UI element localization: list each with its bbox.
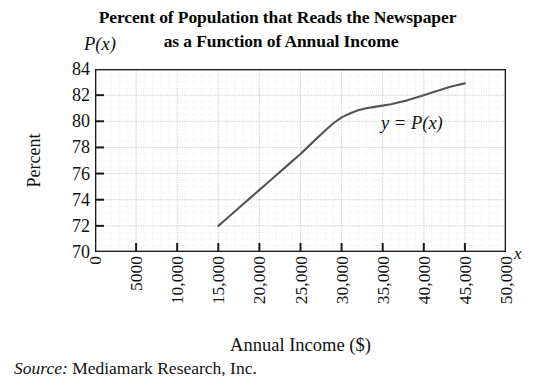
y-axis-tick-labels: 7072747678808284 <box>48 69 90 252</box>
y-tick-label: 78 <box>50 138 90 156</box>
y-tick-label: 80 <box>50 112 90 130</box>
x-tick-label: 5000 <box>128 256 145 291</box>
chart-title-line-1: Percent of Population that Reads the New… <box>0 7 555 28</box>
source-note: Source: Mediamark Research, Inc. <box>14 358 257 379</box>
x-tick-label: 15,000 <box>210 256 227 304</box>
chart-figure: Percent of Population that Reads the New… <box>0 0 555 382</box>
y-tick-label: 84 <box>50 60 90 78</box>
x-tick-label: 20,000 <box>251 256 268 304</box>
chart-title-line-2: as a Function of Annual Income <box>46 31 516 52</box>
x-tick-label: 50,000 <box>498 256 515 304</box>
x-tick-label: 30,000 <box>333 256 350 304</box>
x-tick-label: 25,000 <box>292 256 309 304</box>
y-axis-title: Percent <box>24 116 45 206</box>
x-tick-label: 40,000 <box>415 256 432 304</box>
plot-canvas <box>95 69 506 252</box>
x-tick-label: 10,000 <box>169 256 186 304</box>
y-tick-label: 72 <box>50 217 90 235</box>
curve-annotation-label: y = P(x) <box>381 113 443 134</box>
plot-area: y = P(x) <box>95 69 506 252</box>
x-axis-tick-labels: 0500010,00015,00020,00025,00030,00035,00… <box>95 256 506 336</box>
y-tick-label: 76 <box>50 165 90 183</box>
y-tick-label: 74 <box>50 191 90 209</box>
x-axis-title: Annual Income ($) <box>95 335 506 356</box>
y-tick-label: 82 <box>50 86 90 104</box>
y-axis-symbol-label: P(x) <box>84 34 116 55</box>
x-tick-label: 45,000 <box>456 256 473 304</box>
source-text: Mediamark Research, Inc. <box>72 358 257 378</box>
x-tick-label: 35,000 <box>374 256 391 304</box>
x-tick-label: 0 <box>87 256 104 265</box>
source-label: Source: <box>14 358 68 378</box>
